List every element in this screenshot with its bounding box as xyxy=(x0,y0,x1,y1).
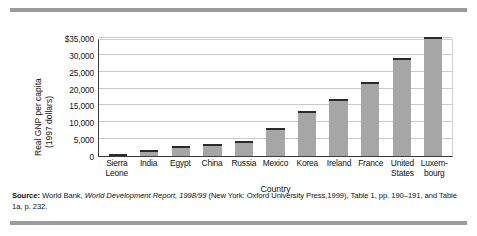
y-axis-tick-label: $35,000 xyxy=(65,34,94,44)
bar-india[interactable] xyxy=(140,150,158,156)
y-axis-tick-label: 10,000 xyxy=(69,118,94,128)
y-axis-tick-label: 25,000 xyxy=(69,68,94,78)
y-axis-ticks: 05,00010,00015,00020,00025,00030,000$35,… xyxy=(34,39,94,157)
chart-panel: Real GNP per capita (1997 dollars) 05,00… xyxy=(10,14,467,182)
bar-ireland[interactable] xyxy=(329,99,347,156)
top-rule xyxy=(10,8,467,12)
source-text-part2: (New York: Oxford University Press,1999)… xyxy=(206,191,422,200)
figure-container: Real GNP per capita (1997 dollars) 05,00… xyxy=(0,0,477,236)
y-axis-tick-label: 15,000 xyxy=(69,101,94,111)
x-axis-tick-label: SierraLeone xyxy=(101,159,133,185)
bar-slot xyxy=(354,40,386,156)
bar-series xyxy=(99,40,452,156)
y-axis-tick-label: 0 xyxy=(89,152,94,162)
bar-france[interactable] xyxy=(361,82,379,156)
bottom-rule xyxy=(10,221,467,225)
plot-frame xyxy=(98,39,453,157)
y-axis-tick-label: 30,000 xyxy=(69,51,94,61)
bar-slot xyxy=(291,40,323,156)
bar-china[interactable] xyxy=(203,144,221,156)
x-axis-tick-label: Russia xyxy=(228,159,260,185)
bar-slot xyxy=(323,40,355,156)
x-axis-tick-label: Mexico xyxy=(260,159,292,185)
x-axis-tick-labels: SierraLeoneIndiaEgyptChinaRussiaMexicoKo… xyxy=(98,159,453,185)
bar-united-states[interactable] xyxy=(393,58,411,156)
bar-korea[interactable] xyxy=(298,111,316,157)
bar-slot xyxy=(417,40,449,156)
x-axis-tick-label: UnitedStates xyxy=(387,159,419,185)
bar-sierra-leone[interactable] xyxy=(109,154,127,157)
bar-mexico[interactable] xyxy=(266,128,284,156)
bar-slot xyxy=(165,40,197,156)
y-axis-tick-label: 5,000 xyxy=(74,135,94,145)
x-axis-tick-label: India xyxy=(133,159,165,185)
bar-russia[interactable] xyxy=(235,141,253,156)
bar-luxembourg[interactable] xyxy=(424,37,442,156)
gridline xyxy=(99,37,452,38)
bar-slot xyxy=(260,40,292,156)
bar-slot xyxy=(102,40,134,156)
x-axis-tick-label: China xyxy=(196,159,228,185)
x-axis-tick-label: Luxem-bourg xyxy=(418,159,450,185)
x-axis-tick-label: Korea xyxy=(291,159,323,185)
x-axis-tick-label: Ireland xyxy=(323,159,355,185)
x-axis-tick-label: France xyxy=(355,159,387,185)
bar-egypt[interactable] xyxy=(172,146,190,156)
plot-area xyxy=(98,39,453,157)
source-title-italic: World Development Report, 1998/99 xyxy=(85,191,207,200)
source-note: Source: World Bank, World Development Re… xyxy=(12,190,464,212)
source-text-part1: World Bank, xyxy=(40,191,85,200)
bar-slot xyxy=(134,40,166,156)
x-axis-tick-label: Egypt xyxy=(164,159,196,185)
bar-slot xyxy=(197,40,229,156)
bar-slot xyxy=(386,40,418,156)
y-axis-tick-label: 20,000 xyxy=(69,85,94,95)
bar-slot xyxy=(228,40,260,156)
source-label: Source: xyxy=(12,191,40,200)
